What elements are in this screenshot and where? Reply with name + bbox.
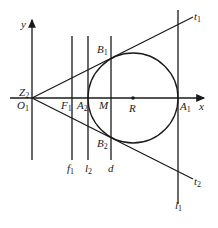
label-f1: f1 [67, 162, 74, 176]
label-d: d [108, 162, 114, 174]
label-A1: A1 [179, 100, 191, 114]
label-B1: B1 [97, 43, 108, 57]
label-l2: l2 [85, 162, 92, 176]
y-axis-label: y [20, 18, 26, 30]
tangent-t1 [32, 17, 193, 98]
label-t1: t1 [194, 10, 201, 24]
geometry-diagram: y x Z2 O1 F1 A2 M R A1 B1 B2 f1 l2 d l1 … [0, 0, 218, 228]
label-O1: O1 [17, 99, 29, 113]
center-point-R [131, 96, 135, 100]
label-t2: t2 [194, 175, 201, 189]
label-Z2: Z2 [19, 86, 29, 100]
label-A2: A2 [76, 99, 88, 113]
label-B2: B2 [97, 137, 108, 151]
label-R: R [128, 102, 136, 114]
label-F1: F1 [60, 99, 72, 113]
label-M: M [98, 99, 109, 111]
x-axis-label: x [198, 100, 204, 112]
